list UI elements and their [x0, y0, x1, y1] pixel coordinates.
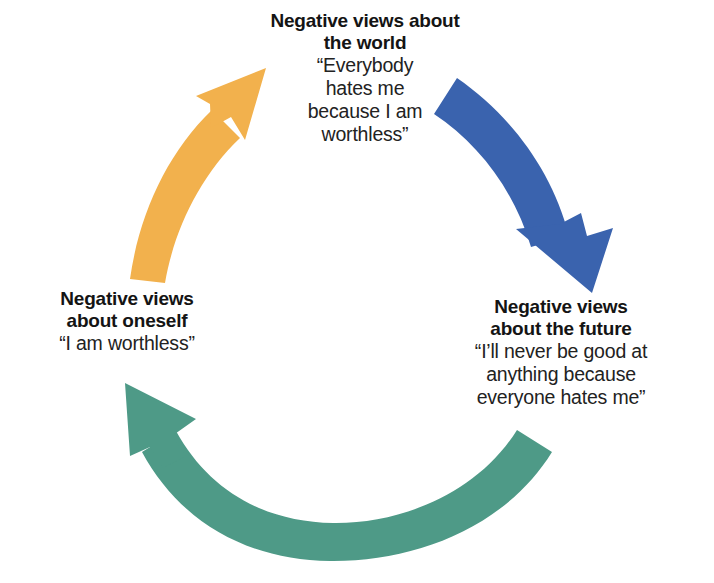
node-world-quote-line-4: worthless”: [232, 123, 498, 146]
orange-arrow-shaft: [130, 110, 240, 283]
node-future-heading-line-2: about the future: [430, 318, 692, 340]
node-world-quote-line-3: because I am: [232, 100, 498, 123]
green-arrow-future-to-oneself: [125, 383, 552, 561]
node-self-quote: “I am worthless”: [8, 332, 246, 355]
node-future-quote: “I’ll never be good at anything because …: [430, 340, 692, 408]
node-future-heading-line-1: Negative views: [430, 296, 692, 318]
node-negative-views-about-the-future: Negative views about the future “I’ll ne…: [430, 296, 692, 409]
green-arrow-shaft: [142, 430, 552, 561]
node-world-heading-line-1: Negative views about: [232, 10, 498, 32]
node-self-quote-line-1: “I am worthless”: [8, 332, 246, 355]
node-negative-views-about-oneself: Negative views about oneself “I am worth…: [8, 288, 246, 355]
node-negative-views-about-the-world: Negative views about the world “Everybod…: [232, 10, 498, 146]
node-future-quote-line-2: anything because: [430, 363, 692, 386]
green-arrow-head: [125, 383, 196, 468]
node-future-quote-line-3: everyone hates me”: [430, 386, 692, 409]
node-world-quote-line-2: hates me: [232, 77, 498, 100]
node-world-heading: Negative views about the world: [232, 10, 498, 54]
node-self-heading: Negative views about oneself: [8, 288, 246, 332]
node-self-heading-line-2: about oneself: [8, 310, 246, 332]
cognitive-triad-diagram: Negative views about the world “Everybod…: [0, 0, 714, 583]
node-world-heading-line-2: the world: [232, 32, 498, 54]
node-world-quote: “Everybody hates me because I am worthle…: [232, 54, 498, 145]
node-world-quote-line-1: “Everybody: [232, 54, 498, 77]
node-self-heading-line-1: Negative views: [8, 288, 246, 310]
node-future-quote-line-1: “I’ll never be good at: [430, 340, 692, 363]
node-future-heading: Negative views about the future: [430, 296, 692, 340]
